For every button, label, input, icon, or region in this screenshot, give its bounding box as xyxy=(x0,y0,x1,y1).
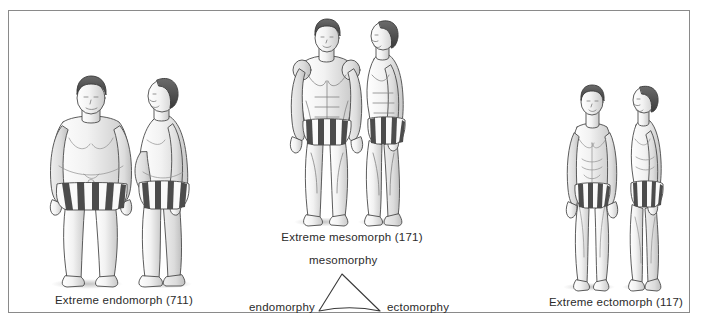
mesomorph-front-trunks xyxy=(303,119,351,145)
ectomorph-figures xyxy=(544,81,689,293)
panel-ectomorph: Extreme ectomorph (117) xyxy=(544,81,689,311)
endomorph-front-view xyxy=(50,76,131,287)
panel-mesomorph: Extreme mesomorph (171) xyxy=(277,13,427,243)
mesomorph-figures xyxy=(277,13,427,228)
caption-endomorph: Extreme endomorph (711) xyxy=(29,294,219,306)
figure-frame: Extreme endomorph (711) xyxy=(8,10,690,313)
mesomorph-side-trunks xyxy=(368,117,405,144)
caption-ectomorph: Extreme ectomorph (117) xyxy=(526,296,701,308)
ectomorph-illustration xyxy=(544,81,689,293)
triangle-outline xyxy=(319,274,380,311)
triangle-label-ectomorphy: ectomorphy xyxy=(387,301,449,313)
endomorph-figures xyxy=(29,56,219,291)
ectomorph-front-trunks xyxy=(575,183,610,208)
mesomorph-illustration xyxy=(277,13,427,228)
caption-mesomorph: Extreme mesomorph (171) xyxy=(262,231,442,243)
ectomorph-side-trunks xyxy=(631,181,663,207)
triangle-label-endomorphy: endomorphy xyxy=(249,301,315,313)
somatotype-triangle-diagram: mesomorphy endomorphy ectomorphy xyxy=(249,254,474,319)
endomorph-illustration xyxy=(29,56,219,291)
endomorph-front-trunks xyxy=(56,182,127,210)
panel-endomorph: Extreme endomorph (711) xyxy=(29,56,219,311)
endomorph-side-trunks xyxy=(139,181,189,209)
triangle-label-mesomorphy: mesomorphy xyxy=(309,254,377,266)
